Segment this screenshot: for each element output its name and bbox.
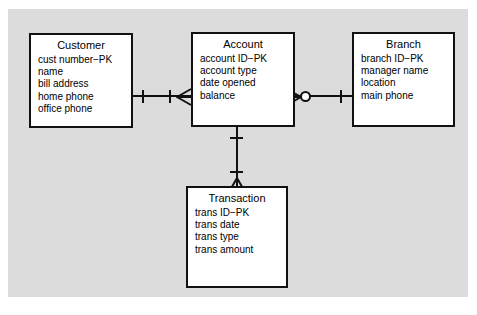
attribute-item: trans type: [195, 231, 286, 243]
entity-transaction-attributes: trans ID−PK trans date trans type trans …: [188, 207, 286, 256]
attribute-item: account type: [200, 65, 293, 77]
entity-branch-title: Branch: [354, 38, 453, 51]
cardinality-one-customer-side: [142, 90, 144, 103]
entity-customer[interactable]: Customer cust number−PK name bill addres…: [29, 33, 133, 128]
cardinality-one-transaction-inner: [230, 171, 243, 173]
entity-transaction[interactable]: Transaction trans ID−PK trans date trans…: [186, 186, 288, 288]
attribute-item: name: [38, 66, 131, 78]
entity-account[interactable]: Account account ID−PK account type date …: [191, 32, 295, 127]
attribute-item: trans amount: [195, 244, 286, 256]
attribute-item: main phone: [361, 90, 453, 102]
attribute-item: account ID−PK: [200, 53, 293, 65]
diagram-canvas: Customer cust number−PK name bill addres…: [0, 0, 477, 315]
attribute-item: balance: [200, 90, 293, 102]
attribute-item: branch ID−PK: [361, 53, 453, 65]
attribute-item: location: [361, 77, 453, 89]
entity-customer-title: Customer: [31, 39, 131, 52]
attribute-item: bill address: [38, 78, 131, 90]
entity-branch-attributes: branch ID−PK manager name location main …: [354, 53, 453, 102]
attribute-item: trans date: [195, 219, 286, 231]
entity-transaction-title: Transaction: [188, 192, 286, 205]
diagram-surface: Customer cust number−PK name bill addres…: [8, 9, 468, 297]
cardinality-zero-optional-circle: [300, 91, 311, 102]
attribute-item: trans ID−PK: [195, 207, 286, 219]
cardinality-one-account-inner: [169, 90, 171, 103]
cardinality-one-account-bottom: [230, 137, 243, 139]
entity-customer-attributes: cust number−PK name bill address home ph…: [31, 54, 131, 115]
cardinality-one-branch-side: [340, 90, 342, 103]
attribute-item: office phone: [38, 103, 131, 115]
crows-foot-account-side: [176, 88, 192, 106]
attribute-item: home phone: [38, 91, 131, 103]
attribute-item: manager name: [361, 65, 453, 77]
attribute-item: date opened: [200, 77, 293, 89]
entity-branch[interactable]: Branch branch ID−PK manager name locatio…: [352, 32, 455, 127]
attribute-item: cust number−PK: [38, 54, 131, 66]
entity-account-title: Account: [193, 38, 293, 51]
entity-account-attributes: account ID−PK account type date opened b…: [193, 53, 293, 102]
